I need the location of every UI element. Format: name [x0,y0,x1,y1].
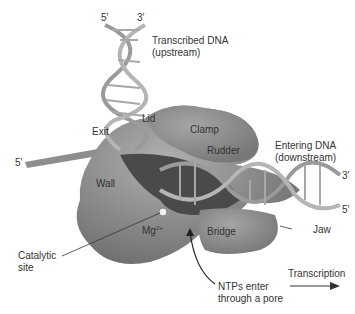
label-catalytic: Catalytic [18,250,56,262]
label-ntps-enter: NTPs enter [218,281,269,293]
mg-superscript: 2+ [156,225,163,231]
label-upstream: (upstream) [152,47,200,59]
label-transcribed-dna: Transcribed DNA [152,35,228,47]
label-wall: Wall [96,178,115,190]
label-exit: Exit [92,126,109,138]
label-right-5prime: 5′ [342,204,349,216]
label-lid: Lid [142,113,155,125]
label-through-pore: through a pore [218,293,283,305]
label-site: site [18,262,34,274]
label-rudder: Rudder [207,145,240,157]
label-left-5prime: 5′ [15,157,22,169]
label-right-3prime: 3′ [342,170,349,182]
mg-ion [159,208,167,216]
label-clamp: Clamp [190,124,219,136]
label-downstream: (downstream) [275,152,336,164]
label-top-5prime: 5′ [101,12,108,24]
transcription-arrow-head [330,282,340,290]
label-top-3prime: 3′ [137,12,144,24]
label-bridge: Bridge [207,226,236,238]
label-entering-dna: Entering DNA [275,140,336,152]
label-jaw: Jaw [313,224,331,236]
label-mg: Mg2+ [142,222,163,237]
jaw-leader [280,226,292,229]
mg-text: Mg [142,225,156,236]
label-transcription: Transcription [288,268,345,280]
